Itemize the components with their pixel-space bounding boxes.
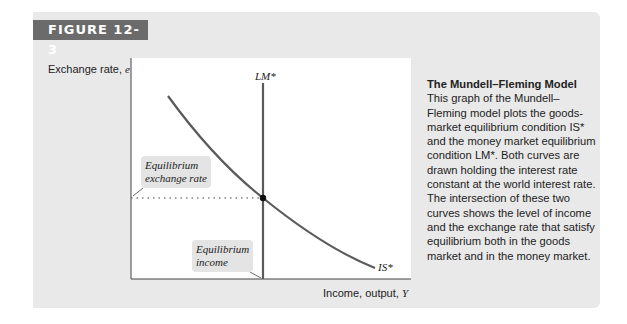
callout-text: Equilibrium xyxy=(145,159,207,172)
is-label: IS* xyxy=(378,261,393,273)
figure-caption: The Mundell–Fleming Model This graph of … xyxy=(427,77,597,263)
callout-equilibrium-income: Equilibrium income xyxy=(192,240,253,272)
caption-body: This graph of the Mundell–Fleming model … xyxy=(427,92,596,261)
caption-title: The Mundell–Fleming Model xyxy=(427,78,577,90)
x-axis-label: Income, output, Y xyxy=(323,287,408,299)
callout-equilibrium-exchange-rate: Equilibrium exchange rate xyxy=(141,156,211,188)
lm-label: LM* xyxy=(255,70,276,82)
callout-text: Equilibrium xyxy=(196,243,249,256)
equilibrium-point xyxy=(260,195,266,201)
callout-text: exchange rate xyxy=(145,172,207,185)
callout-text: income xyxy=(196,256,249,269)
